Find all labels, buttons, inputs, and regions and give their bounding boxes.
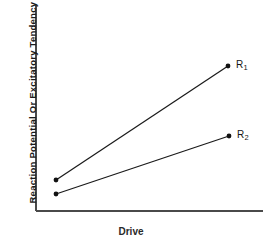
marker-r1-end <box>226 64 231 69</box>
y-axis-label: Reaction Potential Or Excitatory Tendenc… <box>27 4 38 204</box>
series-label-r2: R2 <box>237 129 248 140</box>
chart-figure: Reaction Potential Or Excitatory Tendenc… <box>0 0 263 235</box>
marker-r2-end <box>227 134 232 139</box>
series-label-r2-subscript: 2 <box>245 133 249 142</box>
series-line-r2 <box>56 136 229 194</box>
series-label-r1: R1 <box>236 59 247 70</box>
x-axis-label: Drive <box>36 226 226 235</box>
series-label-r1-subscript: 1 <box>244 63 248 72</box>
marker-r2-start <box>54 192 59 197</box>
marker-r1-start <box>54 178 59 183</box>
series-label-r2-text: R <box>237 129 244 140</box>
series-line-r1 <box>56 66 228 180</box>
plot-area <box>0 0 263 235</box>
series-label-r1-text: R <box>236 59 243 70</box>
